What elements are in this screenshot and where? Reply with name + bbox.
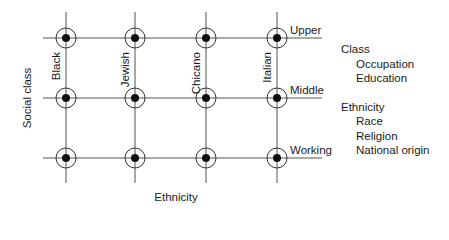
legend-item: Religion — [341, 129, 430, 144]
legend-title: Ethnicity — [341, 100, 430, 115]
dot-icon — [202, 154, 210, 162]
row-label: Middle — [290, 84, 324, 96]
dot-icon — [131, 154, 139, 162]
dot-icon — [131, 94, 139, 102]
x-axis-label: Ethnicity — [154, 191, 198, 203]
legend-title: Class — [341, 42, 430, 57]
row-labels: UpperMiddleWorking — [290, 24, 332, 156]
column-label: Black — [50, 52, 62, 80]
dot-icon — [131, 34, 139, 42]
y-axis-label: Social class — [21, 67, 33, 128]
dot-icon — [62, 94, 70, 102]
column-labels: BlackJewishChicanoItalian — [50, 52, 273, 94]
legend-group-class: Class Occupation Education — [341, 42, 430, 86]
dot-icon — [62, 154, 70, 162]
row-label: Upper — [290, 24, 321, 36]
dimension-legend: Class Occupation Education Ethnicity Rac… — [341, 42, 430, 158]
column-label: Italian — [261, 52, 273, 83]
legend-group-ethnicity: Ethnicity Race Religion National origin — [341, 100, 430, 158]
legend-item: Race — [341, 114, 430, 129]
dot-icon — [62, 34, 70, 42]
dot-icon — [202, 34, 210, 42]
column-label: Chicano — [190, 52, 202, 94]
legend-item: Education — [341, 71, 430, 86]
legend-item: Occupation — [341, 57, 430, 72]
dot-icon — [273, 34, 281, 42]
column-label: Jewish — [119, 52, 131, 87]
legend-item: National origin — [341, 143, 430, 158]
dot-icon — [202, 94, 210, 102]
dot-icon — [273, 154, 281, 162]
dot-icon — [273, 94, 281, 102]
row-label: Working — [290, 144, 332, 156]
